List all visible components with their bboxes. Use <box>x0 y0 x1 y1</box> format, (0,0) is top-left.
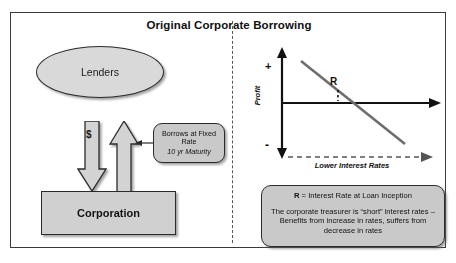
note-key-definition: = Interest Rate at Loan Inception <box>302 191 412 200</box>
y-axis-label: Profit <box>253 86 262 106</box>
diagram-title: Original Corporate Borrowing <box>11 19 447 31</box>
corporation-node: Corporation <box>41 191 176 235</box>
cash-down-arrow <box>77 121 107 193</box>
cash-amount-label: $ <box>86 129 92 140</box>
y-axis-positive-label: + <box>265 60 271 72</box>
callout-line-1: Borrows at Fixed Rate <box>154 130 224 146</box>
corporation-label: Corporation <box>77 207 140 219</box>
chart-plot-area <box>257 43 447 173</box>
panel-divider <box>232 21 233 243</box>
profit-vs-rates-chart: + - Profit R Lower Interest Rates <box>257 43 447 173</box>
lenders-label: Lenders <box>81 66 119 78</box>
borrowing-up-arrow <box>109 121 139 193</box>
x-axis-label: Lower Interest Rates <box>257 161 447 170</box>
note-key: R <box>294 191 299 200</box>
lenders-node: Lenders <box>36 46 164 98</box>
y-axis-negative-label: - <box>265 138 269 152</box>
note-key-line: R = Interest Rate at Loan Inception <box>268 191 438 201</box>
callout-line-2: 10 yr Maturity <box>167 148 211 156</box>
diagram-frame: Original Corporate Borrowing Lenders $ B… <box>10 12 446 248</box>
borrowing-terms-callout: Borrows at Fixed Rate 10 yr Maturity <box>153 123 225 163</box>
r-point-label: R <box>330 76 337 87</box>
note-body: The corporate treasurer is “short” inter… <box>268 207 438 236</box>
explanatory-note-box: R = Interest Rate at Loan Inception The … <box>261 185 445 247</box>
